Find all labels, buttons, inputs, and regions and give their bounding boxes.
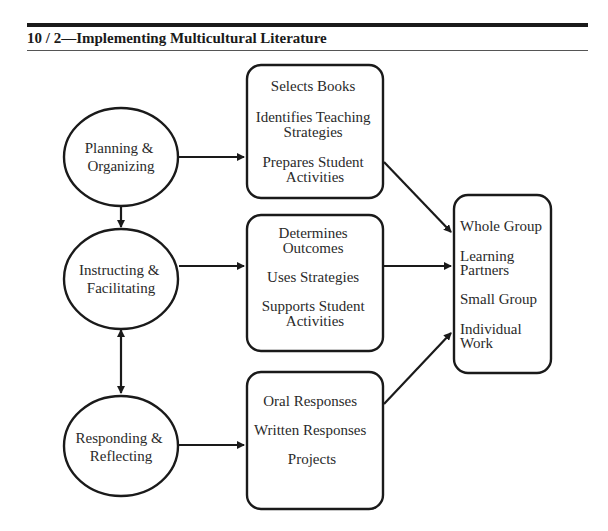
activity-item: Identifies Teaching [256, 109, 371, 125]
arrow-responding-activities-to-grouping [384, 333, 451, 404]
stage-label-line: Instructing & [79, 262, 160, 278]
activity-item: Uses Strategies [267, 269, 359, 285]
stage-instructing: Instructing & Facilitating [64, 229, 178, 329]
activity-box-instructing: Determines Outcomes Uses Strategies Supp… [247, 215, 383, 351]
stage-planning: Planning & Organizing [64, 108, 178, 206]
activity-item: Strategies [284, 124, 343, 140]
stage-responding: Responding & Reflecting [64, 396, 178, 496]
activity-item: Activities [286, 313, 344, 329]
stage-label-line: Planning & [85, 140, 154, 156]
grouping-item: Work [460, 335, 493, 351]
stage-circle [64, 396, 178, 496]
stage-circle [64, 229, 178, 329]
stage-label-line: Organizing [87, 158, 155, 174]
activity-item: Supports Student [262, 298, 366, 314]
arrow-planning-activities-to-grouping [384, 162, 451, 232]
activity-item: Written Responses [254, 422, 366, 438]
stage-circle [64, 108, 178, 206]
flow-diagram: Planning & Organizing Instructing & Faci… [0, 0, 608, 531]
activity-box-planning: Selects Books Identifies Teaching Strate… [247, 65, 383, 198]
grouping-box: Whole Group Learning Partners Small Grou… [454, 195, 551, 373]
activity-item: Outcomes [283, 240, 344, 256]
activity-item: Projects [288, 451, 336, 467]
grouping-item: Partners [460, 262, 509, 278]
activity-item: Oral Responses [263, 393, 357, 409]
stage-label-line: Reflecting [90, 448, 153, 464]
activity-item: Selects Books [271, 78, 356, 94]
activity-item: Determines [279, 225, 348, 241]
grouping-item: Small Group [460, 291, 537, 307]
stage-label-line: Facilitating [87, 280, 156, 296]
activity-item: Prepares Student [263, 154, 365, 170]
stage-label-line: Responding & [76, 430, 163, 446]
activity-item: Activities [286, 169, 344, 185]
grouping-item: Whole Group [460, 218, 542, 234]
activity-box-responding: Oral Responses Written Responses Project… [247, 372, 383, 509]
